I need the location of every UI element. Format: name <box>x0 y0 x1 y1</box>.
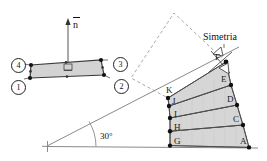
node-dot-J <box>167 104 171 108</box>
node-badge-4: 4 <box>11 58 26 73</box>
point-label-A: A <box>240 137 247 146</box>
node-badge-1: 1 <box>11 80 26 95</box>
simetria-label: Simetria <box>203 31 237 42</box>
node-dot-C <box>241 123 245 127</box>
midside-node-right <box>101 66 104 69</box>
node-dot-K <box>166 96 170 100</box>
point-label-C: C <box>233 115 239 124</box>
node-badge-2: 2 <box>114 79 129 94</box>
midside-node-top <box>65 61 68 64</box>
point-label-G: G <box>174 137 181 146</box>
figure-canvas: n 1 2 3 4 G H I J K A C D E F 30° Simetr… <box>0 0 267 161</box>
left-element-group <box>24 18 110 80</box>
node-dot-A <box>247 145 251 149</box>
point-label-F: F <box>215 53 220 62</box>
node-badge-3: 3 <box>113 57 128 72</box>
node-dot-H <box>168 129 172 133</box>
leader-2 <box>106 76 110 78</box>
angle-label-30deg: 30° <box>100 131 113 141</box>
point-label-I: I <box>174 110 177 119</box>
point-label-E: E <box>221 75 227 84</box>
node-dot-E <box>229 83 233 87</box>
point-label-H: H <box>174 123 181 132</box>
node-dot-3 <box>99 58 103 62</box>
node-dot-I <box>168 116 172 120</box>
angle-arc <box>89 122 96 147</box>
normal-vector-arrow <box>65 18 70 68</box>
midside-node-bottom <box>66 75 69 78</box>
midside-node-left <box>29 70 32 73</box>
origin-cross-icon <box>42 141 53 152</box>
node-dot-G <box>168 143 172 147</box>
point-label-D: D <box>227 95 234 104</box>
point-label-J: J <box>172 97 176 106</box>
node-dot-2 <box>102 73 106 77</box>
normal-vector-label: n <box>73 17 80 30</box>
node-dot-D <box>235 103 239 107</box>
point-label-K: K <box>166 86 173 95</box>
